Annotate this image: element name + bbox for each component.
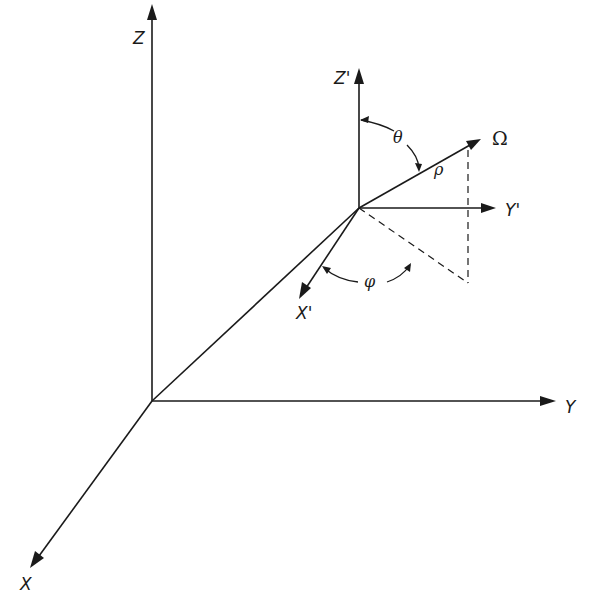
local-y-label: Y' [505,200,520,220]
global-x-axis [30,401,152,568]
local-y-axis [359,203,496,213]
phi-label: φ [364,272,376,291]
theta-arc [360,116,422,172]
global-z-axis [147,4,157,401]
global-z-label: Z [132,28,145,48]
global-y-axis [152,396,556,406]
global-x-label: X [19,574,32,594]
local-z-label: Z' [333,68,350,88]
rho-label: ρ [433,160,444,179]
position-line [152,208,359,401]
local-x-axis [299,208,359,299]
local-x-label: X' [295,303,312,323]
coordinate-diagram: Z Y X Z' Y' X' Ω ρ θ [0,0,601,616]
local-z-axis [354,68,364,208]
theta-label: θ [393,128,403,147]
omega-label: Ω [492,127,508,149]
global-y-label: Y [565,397,577,417]
omega-vector [359,139,481,208]
horizontal-projection-line [359,208,468,283]
